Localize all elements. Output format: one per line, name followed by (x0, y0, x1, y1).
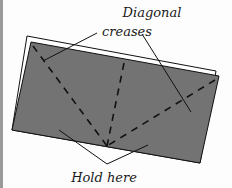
diagram-canvas: Diagonal creases Hold here (0, 0, 232, 188)
folding-diagram: Diagonal creases Hold here (0, 0, 232, 188)
label-hold-here: Hold here (70, 170, 137, 185)
label-creases: creases (102, 24, 152, 39)
label-diagonal: Diagonal (122, 5, 182, 20)
